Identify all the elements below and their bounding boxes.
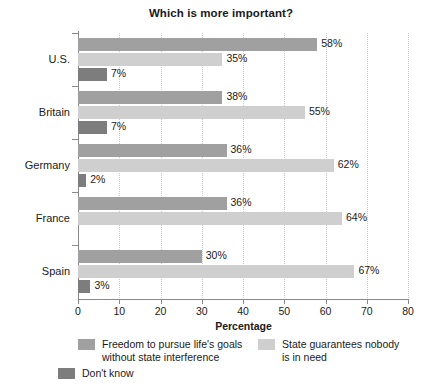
x-tick-60 bbox=[326, 300, 327, 304]
bar bbox=[78, 159, 334, 172]
bar bbox=[78, 68, 107, 81]
legend-item-freedom: Freedom to pursue life's goals without s… bbox=[78, 338, 253, 363]
bar bbox=[78, 174, 86, 187]
bar-group-germany: 36%62%2% bbox=[78, 139, 408, 192]
bar-group-britain: 38%55%7% bbox=[78, 86, 408, 139]
bar-group-france: 36%64% bbox=[78, 192, 408, 245]
x-tick-label-0: 0 bbox=[63, 305, 93, 317]
bar-row: 36% bbox=[78, 144, 408, 157]
bar bbox=[78, 106, 305, 119]
bar-row: 7% bbox=[78, 68, 408, 81]
bar-group-spain: 30%67%3% bbox=[78, 245, 408, 298]
category-label-us: U.S. bbox=[0, 53, 70, 65]
bar-row: 2% bbox=[78, 174, 408, 187]
legend-swatch-dont-know bbox=[58, 368, 75, 379]
category-label-germany: Germany bbox=[0, 159, 70, 171]
bar-row: 30% bbox=[78, 250, 408, 263]
x-axis-title: Percentage bbox=[78, 320, 409, 332]
bar bbox=[78, 121, 107, 134]
bar bbox=[78, 38, 317, 51]
category-label-britain: Britain bbox=[0, 106, 70, 118]
bar-chart-figure: Which is more important? U.S.BritainGerm… bbox=[0, 0, 442, 388]
x-tick-70 bbox=[367, 300, 368, 304]
legend-swatch-freedom bbox=[78, 339, 95, 350]
x-tick-80 bbox=[408, 300, 409, 304]
bar-value-label: 58% bbox=[321, 37, 342, 49]
bar-value-label: 36% bbox=[231, 143, 252, 155]
bar bbox=[78, 250, 202, 263]
legend-label-state: State guarantees nobody is in need bbox=[282, 338, 399, 363]
category-label-france: France bbox=[0, 212, 70, 224]
bar bbox=[78, 197, 227, 210]
bar-row: 64% bbox=[78, 212, 408, 225]
legend-swatch-state bbox=[258, 339, 275, 350]
bar-value-label: 3% bbox=[94, 279, 109, 291]
bar-value-label: 7% bbox=[111, 120, 126, 132]
bar-row: 58% bbox=[78, 38, 408, 51]
legend-label-freedom: Freedom to pursue life's goals without s… bbox=[102, 338, 242, 363]
bar-value-label: 2% bbox=[90, 173, 105, 185]
x-tick-10 bbox=[119, 300, 120, 304]
legend-label-dont-know: Don't know bbox=[82, 367, 134, 380]
bar-value-label: 35% bbox=[226, 52, 247, 64]
x-tick-label-70: 70 bbox=[352, 305, 382, 317]
category-label-spain: Spain bbox=[0, 265, 70, 277]
x-tick-label-80: 80 bbox=[393, 305, 423, 317]
x-tick-label-10: 10 bbox=[104, 305, 134, 317]
x-tick-20 bbox=[161, 300, 162, 304]
chart-legend: Freedom to pursue life's goals without s… bbox=[0, 338, 442, 388]
bar bbox=[78, 91, 222, 104]
bar-row: 62% bbox=[78, 159, 408, 172]
bar-value-label: 30% bbox=[206, 249, 227, 261]
bar-group-us: 58%35%7% bbox=[78, 33, 408, 86]
bar-row: 7% bbox=[78, 121, 408, 134]
bar-value-label: 36% bbox=[231, 196, 252, 208]
bar-row: 3% bbox=[78, 280, 408, 293]
legend-item-state: State guarantees nobody is in need bbox=[258, 338, 438, 363]
bar-value-label: 62% bbox=[338, 158, 359, 170]
bar bbox=[78, 53, 222, 66]
chart-title: Which is more important? bbox=[0, 7, 442, 19]
x-tick-40 bbox=[243, 300, 244, 304]
x-tick-30 bbox=[202, 300, 203, 304]
bar-value-label: 38% bbox=[226, 90, 247, 102]
x-tick-label-20: 20 bbox=[146, 305, 176, 317]
bar-row: 38% bbox=[78, 91, 408, 104]
x-tick-label-60: 60 bbox=[311, 305, 341, 317]
x-tick-label-40: 40 bbox=[228, 305, 258, 317]
bar-row: 67% bbox=[78, 265, 408, 278]
plot-area: 58%35%7%38%55%7%36%62%2%36%64%30%67%3% bbox=[78, 33, 408, 298]
bar-value-label: 7% bbox=[111, 67, 126, 79]
gridline-80 bbox=[408, 33, 409, 298]
bar bbox=[78, 280, 90, 293]
legend-item-dont-know: Don't know bbox=[58, 367, 238, 380]
x-tick-50 bbox=[284, 300, 285, 304]
bar-value-label: 64% bbox=[346, 211, 367, 223]
bar-value-label: 67% bbox=[358, 264, 379, 276]
bar bbox=[78, 265, 354, 278]
bar-row: 36% bbox=[78, 197, 408, 210]
bar bbox=[78, 144, 227, 157]
bar-row: 35% bbox=[78, 53, 408, 66]
x-tick-0 bbox=[78, 300, 79, 304]
x-tick-label-50: 50 bbox=[269, 305, 299, 317]
bar bbox=[78, 212, 342, 225]
bar-value-label: 55% bbox=[309, 105, 330, 117]
bar-row: 55% bbox=[78, 106, 408, 119]
x-tick-label-30: 30 bbox=[187, 305, 217, 317]
bar-row bbox=[78, 227, 408, 240]
